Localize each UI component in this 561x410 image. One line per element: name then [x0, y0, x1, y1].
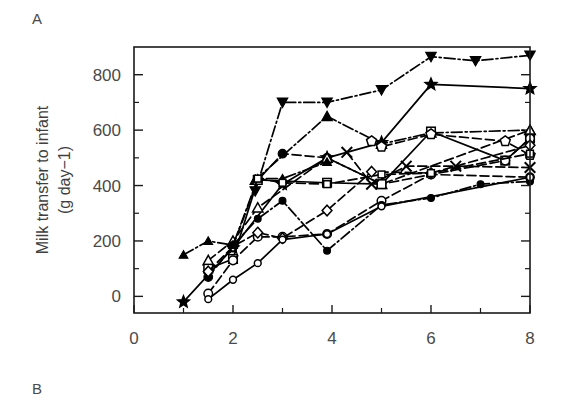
series-lines-group	[177, 51, 536, 307]
marker-triangle-up-filled-small	[204, 237, 213, 245]
series-polyline	[208, 132, 530, 269]
marker-triangle-up-filled	[322, 111, 332, 120]
line-chart-milk-transfer: Milk transfer to infant(g day−1) 0200400…	[0, 0, 561, 370]
y-axis-title-line2: (g day−1)	[56, 146, 73, 214]
marker-circle-filled	[278, 149, 287, 158]
x-tick-label: 0	[129, 329, 138, 348]
series-markers	[204, 127, 534, 273]
series-markers	[230, 178, 534, 254]
marker-circle-open-small	[205, 296, 212, 303]
series-infant-9	[230, 178, 534, 254]
x-tick-label: 8	[525, 329, 534, 348]
marker-circle-open	[229, 256, 238, 265]
series-infant-6	[204, 127, 534, 273]
x-tick-label: 6	[426, 329, 435, 348]
x-tick-label: 4	[327, 329, 336, 348]
y-tick-label: 0	[112, 287, 121, 306]
marker-square-open-small	[324, 181, 331, 188]
y-tick-label: 200	[93, 232, 121, 251]
y-tick-label: 400	[93, 177, 121, 196]
marker-circle-filled-small	[324, 247, 331, 254]
marker-triangle-up-filled-small	[179, 251, 188, 259]
marker-square-open-small	[428, 170, 435, 177]
marker-square-open-small	[279, 179, 286, 186]
series-polyline	[255, 116, 530, 180]
marker-circle-open-small	[279, 236, 286, 243]
marker-x-cross	[342, 147, 353, 158]
panel-b-label: B	[32, 380, 43, 397]
y-tick-label: 600	[93, 121, 121, 140]
x-axis-ticks: 02468	[129, 305, 534, 348]
marker-circle-open-small	[230, 276, 237, 283]
series-polyline	[258, 154, 530, 184]
marker-circle-filled-small	[279, 197, 286, 204]
chart-panel-a: Milk transfer to infant(g day−1) 0200400…	[0, 0, 561, 370]
series-infant-11	[367, 129, 535, 159]
marker-circle-open-small	[254, 260, 261, 267]
marker-circle-filled-small	[254, 215, 261, 222]
series-infant-3	[177, 78, 536, 307]
y-tick-label: 800	[93, 66, 121, 85]
y-axis-title-line1: Milk transfer to infant	[34, 105, 51, 254]
marker-star-filled	[425, 78, 437, 90]
marker-square-open-small	[254, 175, 261, 182]
series-polyline	[184, 84, 531, 302]
marker-circle-open-small	[378, 203, 385, 210]
x-tick-label: 2	[228, 329, 237, 348]
marker-square-open-small	[378, 171, 385, 178]
series-markers	[177, 78, 536, 307]
marker-circle-open-small	[324, 231, 331, 238]
axis-titles: Milk transfer to infant(g day−1)	[34, 105, 73, 254]
figure-panel-container: A B Milk transfer to infant(g day−1) 020…	[0, 0, 561, 410]
series-polyline	[255, 55, 530, 191]
